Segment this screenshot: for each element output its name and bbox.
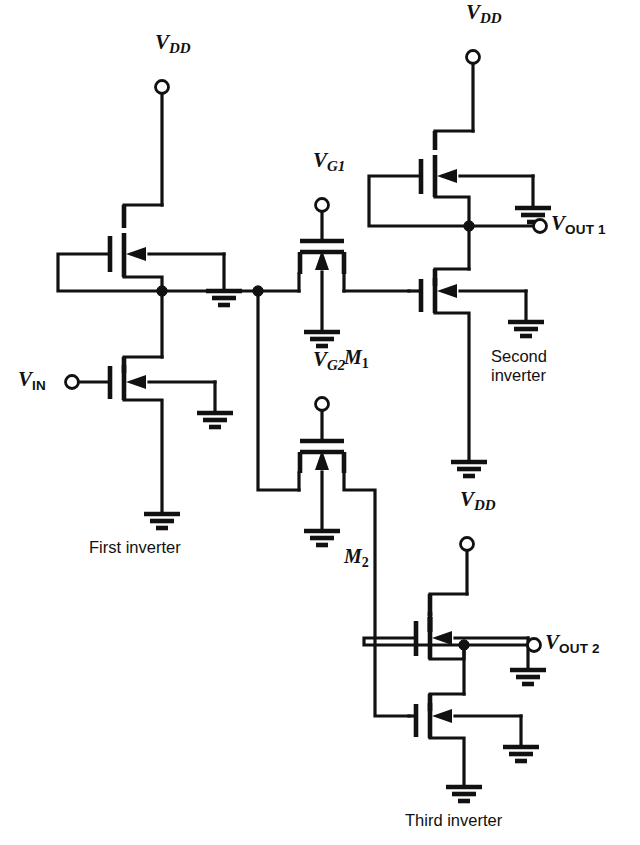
branch-to-m2-wire — [258, 291, 299, 490]
load2-body-arrowhead — [437, 169, 457, 183]
driver2-source-wire — [435, 313, 469, 461]
vout2-label: VOUT 2 — [545, 632, 600, 655]
load1-source-wire — [124, 277, 162, 291]
driver2-body-arrowhead — [437, 284, 457, 298]
load3-body-arrowhead — [432, 631, 452, 645]
vdd-first-terminal-circle[interactable] — [156, 81, 169, 94]
driver3-source-wire — [430, 738, 464, 786]
vg2-terminal-circle[interactable] — [316, 398, 329, 411]
m2-drain-to-third-inverter-wire — [344, 473, 409, 716]
vg1-label: VG1 — [313, 150, 345, 174]
interconnect-bus-group — [162, 286, 299, 490]
second-inverter-group — [369, 51, 551, 477]
schematic-svg — [0, 0, 640, 845]
vin-terminal-circle[interactable] — [66, 376, 79, 389]
vg2-label: VG2 — [313, 349, 345, 373]
pass-transistor-m1-group — [299, 199, 409, 347]
load2-source-wire — [435, 197, 469, 226]
second-inverter-caption-line1: Second — [491, 347, 547, 365]
vout2-terminal-circle[interactable] — [528, 639, 541, 652]
m1-label: M1 — [344, 347, 369, 371]
circuit-diagram-figure: VDD VIN VG1 VG2 M1 M2 VDD VOUT 1 VDD VOU… — [0, 0, 640, 845]
driver1-source-wire — [124, 400, 162, 513]
first-inverter-group — [58, 81, 242, 529]
second-inverter-caption: Secondinverter — [491, 347, 547, 386]
third-inverter-group — [364, 538, 546, 802]
third-inverter-caption: Third inverter — [405, 811, 502, 830]
first-inverter-caption: First inverter — [89, 538, 181, 557]
m2-label: M2 — [344, 546, 369, 570]
driver3-body-arrowhead — [432, 709, 452, 723]
vdd-second-label: VDD — [466, 2, 502, 26]
vdd-first-label: VDD — [155, 32, 191, 56]
load1-body-arrowhead — [126, 247, 146, 261]
vin-label: VIN — [18, 369, 46, 392]
vout1-terminal-circle[interactable] — [534, 220, 547, 233]
vdd-second-terminal-circle[interactable] — [467, 51, 480, 64]
vdd-third-terminal-circle[interactable] — [461, 538, 474, 551]
vout1-label: VOUT 1 — [551, 213, 606, 236]
vg1-terminal-circle[interactable] — [316, 199, 329, 212]
second-inverter-caption-line2: inverter — [491, 366, 546, 384]
driver1-body-arrowhead — [126, 375, 146, 389]
vdd-third-label: VDD — [460, 489, 496, 513]
